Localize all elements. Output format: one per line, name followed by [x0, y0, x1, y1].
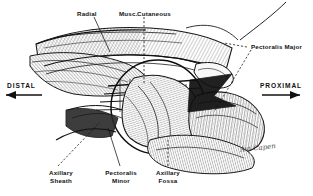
label-radial: Radial [77, 10, 97, 17]
label-pectoralis-minor-line1: Pectoralis [101, 169, 141, 176]
anatomy-illustration [0, 0, 313, 196]
label-axillary-sheath-line1: Axillary [43, 169, 79, 176]
direction-label-proximal: PROXIMAL [260, 82, 302, 89]
label-cutaneous: Cutaneous [137, 10, 171, 17]
label-axillary-sheath-line2: Sheath [43, 177, 79, 184]
figure-canvas: Radial Musc. Cutaneous Pectoralis Major … [0, 0, 313, 196]
label-axillary-fossa-line1: Axillary [150, 169, 186, 176]
label-axillary-fossa-line2: Fossa [150, 177, 186, 184]
label-pectoralis-major: Pectoralis Major [251, 43, 302, 50]
label-musc: Musc. [119, 10, 138, 17]
direction-label-distal: DISTAL [7, 82, 36, 89]
label-pectoralis-minor-line2: Minor [101, 177, 141, 184]
